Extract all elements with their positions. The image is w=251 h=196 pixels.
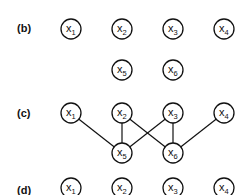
node-subscript: 3 bbox=[174, 187, 178, 196]
panel-c: (c)x1x2x3x4x5x6 bbox=[17, 103, 234, 163]
node-subscript: 4 bbox=[225, 28, 229, 37]
node-x3: x3 bbox=[163, 103, 183, 123]
node-subscript: 2 bbox=[123, 112, 127, 121]
node-x2: x2 bbox=[112, 19, 132, 39]
node-x1: x1 bbox=[61, 178, 81, 195]
node-subscript: 1 bbox=[72, 187, 76, 196]
node-x6: x6 bbox=[163, 143, 183, 163]
node-subscript: 1 bbox=[72, 28, 76, 37]
node-x5: x5 bbox=[112, 60, 132, 80]
node-subscript: 3 bbox=[174, 28, 178, 37]
panel-label: (d) bbox=[17, 184, 31, 195]
node-x6: x6 bbox=[163, 60, 183, 80]
node-x3: x3 bbox=[163, 19, 183, 39]
node-x4: x4 bbox=[214, 103, 234, 123]
node-subscript: 3 bbox=[174, 112, 178, 121]
node-subscript: 5 bbox=[123, 69, 127, 78]
node-subscript: 5 bbox=[123, 152, 127, 161]
graph-diagram: (b)x1x2x3x4x5x6(c)x1x2x3x4x5x6(d)x1x2x3x… bbox=[0, 0, 251, 195]
node-subscript: 6 bbox=[174, 152, 178, 161]
node-x5: x5 bbox=[112, 143, 132, 163]
panel-d: (d)x1x2x3x4 bbox=[17, 178, 234, 195]
node-subscript: 2 bbox=[123, 187, 127, 196]
node-x1: x1 bbox=[61, 19, 81, 39]
node-x2: x2 bbox=[112, 178, 132, 195]
node-x2: x2 bbox=[112, 103, 132, 123]
panel-label: (c) bbox=[17, 107, 31, 119]
node-x4: x4 bbox=[214, 19, 234, 39]
node-x3: x3 bbox=[163, 178, 183, 195]
panel-label: (b) bbox=[17, 22, 31, 34]
node-x4: x4 bbox=[214, 178, 234, 195]
node-subscript: 4 bbox=[225, 187, 229, 196]
node-subscript: 2 bbox=[123, 28, 127, 37]
panel-b: (b)x1x2x3x4x5x6 bbox=[17, 19, 234, 80]
node-subscript: 6 bbox=[174, 69, 178, 78]
node-x1: x1 bbox=[61, 103, 81, 123]
node-subscript: 4 bbox=[225, 112, 229, 121]
node-subscript: 1 bbox=[72, 112, 76, 121]
